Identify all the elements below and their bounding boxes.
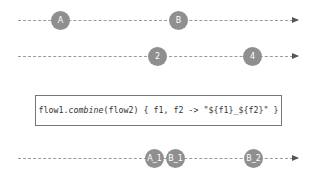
- marble-b: B: [169, 11, 188, 30]
- marble-4: 4: [243, 47, 262, 66]
- marble-b2: B_2: [244, 149, 263, 168]
- operator-receiver: flow1.: [39, 105, 69, 115]
- marble-a1: A_1: [145, 149, 164, 168]
- marble-b1: B_1: [166, 149, 185, 168]
- marble-a: A: [51, 11, 70, 30]
- operator-box: flow1.combine(flow2) { f1, f2 -> "${f1}_…: [35, 95, 282, 126]
- operator-method: combine: [69, 105, 104, 115]
- arrow-head-icon: [292, 17, 299, 23]
- arrow-head-icon: [292, 155, 299, 161]
- arrow-head-icon: [292, 53, 299, 59]
- marble-2: 2: [148, 47, 167, 66]
- operator-lambda: (flow2) { f1, f2 -> "${f1}_${f2}" }: [104, 105, 279, 115]
